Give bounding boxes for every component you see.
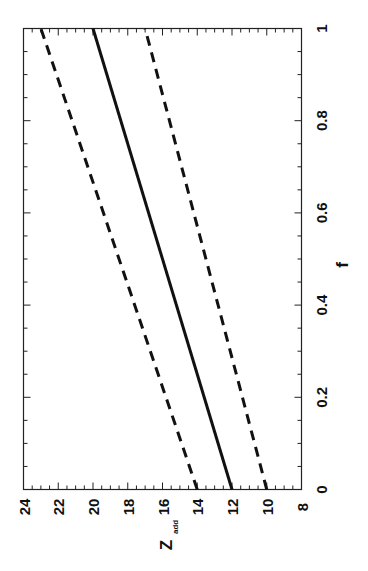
z-tick-label: 10 [259,499,276,516]
z-tick-label: 22 [50,499,67,516]
z-axis-tick-labels: 81012141618202224 [16,498,311,515]
z-axis-label: Z add [157,520,180,551]
f-axis-label: f [333,262,352,268]
f-tick-label: 1 [313,24,330,32]
z-tick-label: 14 [189,498,206,515]
z-tick-label: 8 [294,503,311,511]
f-tick-label: 0.4 [313,294,330,316]
z-tick-label: 12 [224,499,241,516]
z-tick-label: 24 [16,498,33,515]
z-tick-label: 18 [120,499,137,516]
z-tick-label: 20 [85,499,102,516]
f-tick-label: 0 [313,485,330,493]
f-axis-tick-labels: 00.20.40.60.81 [313,24,330,493]
svg-text:Z: Z [157,540,176,550]
series-central [93,29,232,490]
f-tick-label: 0.6 [313,202,330,223]
f-tick-label: 0.8 [313,110,330,131]
f-tick-label: 0.2 [313,387,330,408]
data-series [41,29,267,490]
chart: 81012141618202224 00.20.40.60.81 Z add f [0,0,368,571]
svg-text:add: add [171,520,180,534]
series-upper-bound [41,29,197,490]
z-tick-label: 16 [155,499,172,516]
